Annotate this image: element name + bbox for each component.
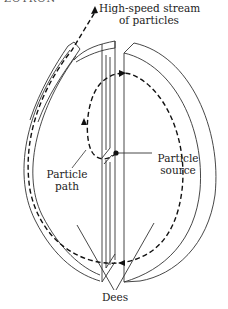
title-fragment: ZOTRON [4, 0, 56, 5]
label-stream-line2: of particles [99, 14, 199, 26]
path-arrow-left-icon [81, 118, 87, 125]
exit-tube-outer [68, 42, 80, 55]
label-stream-line1: High-speed stream [99, 2, 199, 14]
label-path-line1: Particle [44, 168, 90, 180]
path-arrow-top-icon [119, 70, 126, 77]
path-arrow-bottom-icon [118, 260, 125, 266]
left-dee-top [74, 41, 115, 62]
cyclotron-diagram: ZOTRON High-speed stream of particles Pa… [0, 0, 228, 309]
label-dees: Dees [100, 291, 130, 303]
particle-source-dot [113, 150, 118, 155]
label-particle-path: Particle path [44, 168, 90, 192]
label-high-speed-stream: High-speed stream of particles [99, 2, 199, 26]
label-source-line1: Particle [153, 152, 203, 164]
label-particle-source: Particle source [153, 152, 203, 176]
label-source-line2: source [153, 164, 203, 176]
label-path-line2: path [44, 180, 90, 192]
right-dee-top [124, 43, 134, 53]
exit-arrow-icon [91, 6, 98, 14]
